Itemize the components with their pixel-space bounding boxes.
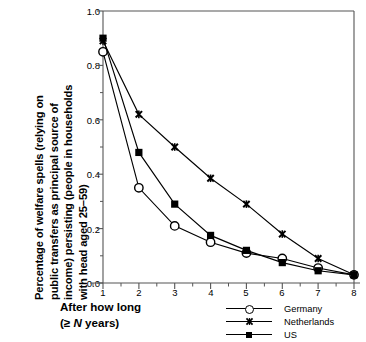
series-layer (99, 35, 358, 279)
data-point (171, 201, 178, 208)
x-axis-caption-line1: After how long (60, 299, 210, 315)
legend: Germany Netherlands US (226, 303, 362, 342)
data-point (315, 267, 322, 274)
data-point (136, 111, 142, 119)
data-point (350, 271, 357, 278)
legend-item-germany[interactable]: Germany (226, 303, 362, 315)
legend-item-us[interactable]: US (226, 329, 362, 341)
series-germany (99, 48, 358, 279)
legend-label-germany: Germany (284, 304, 322, 314)
data-point (243, 200, 249, 208)
data-point (207, 174, 213, 182)
x-axis-caption: After how long (≥ N years) (60, 299, 210, 330)
series-us (99, 35, 357, 279)
x-caption-post: years) (82, 316, 119, 329)
filled-square-marker-icon (246, 332, 252, 338)
data-point (206, 238, 214, 246)
data-point (135, 184, 143, 192)
x-caption-var-n: N (73, 316, 81, 329)
open-circle-marker-icon (245, 305, 254, 314)
data-point (99, 35, 106, 42)
legend-label-netherlands: Netherlands (284, 317, 334, 327)
chart-figure: Percentage of welfare spells (relying on… (0, 0, 366, 342)
plot-area (0, 0, 366, 342)
series-line (103, 41, 354, 275)
x-axis-caption-line2: (≥ N years) (60, 315, 210, 331)
series-line (103, 38, 354, 275)
data-point (171, 222, 179, 230)
legend-swatch-us (226, 329, 272, 341)
data-point (243, 247, 250, 254)
data-point (315, 255, 321, 263)
x-caption-pre: (≥ (60, 316, 73, 329)
data-point (279, 259, 286, 266)
data-point (135, 149, 142, 156)
data-point (207, 232, 214, 239)
data-point (172, 143, 178, 151)
legend-label-us: US (284, 330, 297, 340)
legend-swatch-germany (226, 303, 272, 315)
legend-item-netherlands[interactable]: Netherlands (226, 316, 362, 328)
legend-swatch-netherlands (226, 316, 272, 328)
series-line (103, 52, 354, 275)
axis-frame (90, 11, 360, 283)
data-point (279, 230, 285, 238)
x-cross-marker-icon (245, 317, 254, 326)
